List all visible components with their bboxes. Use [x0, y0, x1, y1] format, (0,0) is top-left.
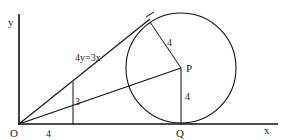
tangent-point-mark — [146, 12, 154, 17]
line-O-to-P — [19, 68, 181, 124]
label-vertical-3: 3 — [75, 96, 80, 107]
label-radius-PQ: 4 — [185, 91, 190, 102]
label-origin: O — [10, 127, 18, 139]
geometry-figure: y x O 4y=3x P Q 4 4 3 4 — [0, 0, 286, 140]
label-center-P: P — [186, 62, 192, 74]
label-horizontal-4: 4 — [46, 128, 51, 139]
label-line-equation: 4y=3x — [75, 52, 101, 63]
label-y-axis: y — [8, 16, 14, 28]
label-x-axis: x — [264, 124, 270, 136]
label-Q: Q — [176, 127, 184, 139]
diagram: y x O 4y=3x P Q 4 4 3 4 — [0, 0, 286, 140]
radius-to-tangent-point — [150, 22, 181, 68]
label-radius-tangent: 4 — [167, 37, 172, 48]
tangent-line-4y-3x — [19, 19, 150, 124]
